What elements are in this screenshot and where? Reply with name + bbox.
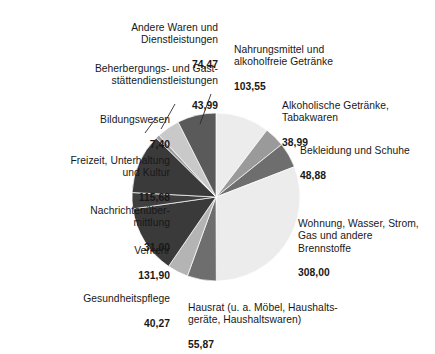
label-wohnung: Wohnung, Wasser, Strom, Gas und andere B… (298, 206, 434, 291)
label-text: Hausrat (u. a. Möbel, Haushalts- geräte,… (188, 302, 338, 326)
label-text: Beherbergungs- und Gast- stättendienstle… (34, 63, 218, 87)
label-value: 55,87 (188, 339, 338, 351)
label-value: 308,00 (298, 267, 434, 279)
label-text: Andere Waren und Dienstleistungen (100, 22, 218, 46)
label-gesundheitspflege: Gesundheitspflege 40,27 (60, 281, 170, 342)
label-text: Verkehr (50, 245, 170, 257)
label-hausrat: Hausrat (u. a. Möbel, Haushalts- geräte,… (188, 290, 338, 354)
label-value: 131,90 (50, 270, 170, 282)
label-value: 48,88 (300, 170, 434, 182)
label-text: Gesundheitspflege (60, 293, 170, 305)
label-text: Bildungswesen (40, 114, 170, 126)
label-text: Wohnung, Wasser, Strom, Gas und andere B… (298, 218, 434, 255)
label-value: 40,27 (60, 318, 170, 330)
label-value: 38,99 (282, 137, 432, 149)
label-value: 103,55 (234, 81, 374, 93)
label-text: Freizeit, Unterhaltung und Kultur (8, 155, 170, 179)
label-nahrungsmittel: Nahrungsmittel und alkoholfreie Getränke… (234, 32, 374, 105)
label-text: Nahrungsmittel und alkoholfreie Getränke (234, 44, 374, 68)
label-text: Nachrichtenüber- mittlung (30, 205, 170, 229)
